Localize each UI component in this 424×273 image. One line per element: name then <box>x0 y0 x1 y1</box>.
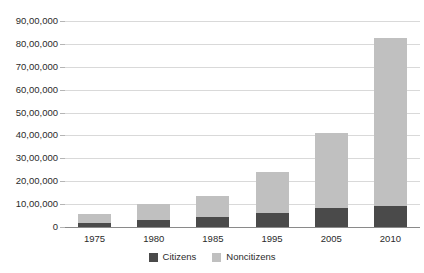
gridline <box>65 21 420 22</box>
legend-swatch-icon <box>149 253 158 262</box>
bar-segment-citizens[interactable] <box>78 223 111 227</box>
bar-segment-noncitizens[interactable] <box>374 38 407 206</box>
bar-segment-citizens[interactable] <box>374 206 407 227</box>
x-axis-tick-label: 1985 <box>187 234 239 244</box>
y-tick-mark <box>60 158 65 159</box>
bar-segment-noncitizens[interactable] <box>196 196 229 217</box>
x-axis-tick-label: 1995 <box>246 234 298 244</box>
y-axis-tick-label: 70,00,000 <box>0 62 58 72</box>
bar-segment-citizens[interactable] <box>256 213 289 227</box>
y-axis-tick-label: 90,00,000 <box>0 16 58 26</box>
y-axis-tick-label: 10,00,000 <box>0 199 58 209</box>
gridline <box>65 204 420 205</box>
stacked-bar-chart: 90,00,00080,00,00070,00,00060,00,00050,0… <box>0 0 424 273</box>
y-axis-tick-label: 80,00,000 <box>0 39 58 49</box>
gridline <box>65 90 420 91</box>
y-axis-tick-label: 60,00,000 <box>0 85 58 95</box>
y-axis-tick-label: 20,00,000 <box>0 176 58 186</box>
chart-legend: CitizensNoncitizens <box>0 252 424 262</box>
bar-segment-noncitizens[interactable] <box>137 204 170 220</box>
y-axis-tick-label: 30,00,000 <box>0 153 58 163</box>
y-tick-mark <box>60 227 65 228</box>
gridline <box>65 67 420 68</box>
gridline <box>65 113 420 114</box>
gridline <box>65 158 420 159</box>
bar-segment-citizens[interactable] <box>196 217 229 227</box>
x-axis-tick-label: 2010 <box>364 234 416 244</box>
y-tick-mark <box>60 21 65 22</box>
legend-item[interactable]: Noncitizens <box>212 252 275 262</box>
axis-baseline <box>65 227 420 228</box>
x-axis-tick-label: 2005 <box>305 234 357 244</box>
y-tick-mark <box>60 204 65 205</box>
x-axis-tick-label: 1980 <box>128 234 180 244</box>
gridline <box>65 135 420 136</box>
bar-segment-noncitizens[interactable] <box>78 214 111 223</box>
gridline <box>65 44 420 45</box>
bar-segment-citizens[interactable] <box>315 208 348 227</box>
y-tick-mark <box>60 181 65 182</box>
y-tick-mark <box>60 67 65 68</box>
legend-item[interactable]: Citizens <box>149 252 197 262</box>
plot-area <box>65 21 420 227</box>
bar-segment-noncitizens[interactable] <box>256 172 289 213</box>
gridline <box>65 181 420 182</box>
y-tick-mark <box>60 44 65 45</box>
y-tick-mark <box>60 113 65 114</box>
y-axis-tick-label: 40,00,000 <box>0 130 58 140</box>
legend-label: Noncitizens <box>226 252 275 262</box>
y-axis-tick-label: 50,00,000 <box>0 108 58 118</box>
y-tick-mark <box>60 90 65 91</box>
legend-label: Citizens <box>163 252 197 262</box>
x-axis-tick-label: 1975 <box>69 234 121 244</box>
bar-segment-noncitizens[interactable] <box>315 133 348 208</box>
y-tick-mark <box>60 135 65 136</box>
y-axis-tick-label: 0 <box>0 222 58 232</box>
legend-swatch-icon <box>212 253 221 262</box>
bar-segment-citizens[interactable] <box>137 220 170 227</box>
